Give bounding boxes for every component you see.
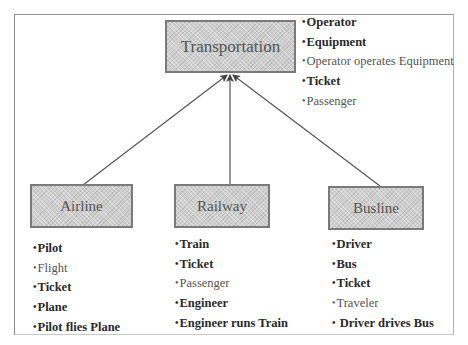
bullet-icon: • (33, 262, 37, 273)
bullet-icon: • (302, 55, 306, 66)
attribute-item: •Operator (302, 13, 454, 33)
attribute-item: •Bus (332, 255, 434, 275)
bullet-icon: • (332, 297, 336, 308)
railway-attributes: •Train •Ticket •Passenger •Engineer •Eng… (175, 235, 288, 334)
railway-label: Railway (197, 198, 247, 215)
attribute-item: •Train (175, 235, 288, 255)
bullet-icon: • (33, 301, 37, 312)
attribute-item: •Equipment (302, 33, 454, 53)
bullet-icon: • (302, 16, 306, 27)
transportation-attributes: •Operator •Equipment •Operator operates … (302, 13, 454, 112)
bullet-icon: • (302, 75, 306, 86)
attribute-item: •Engineer (175, 294, 288, 314)
bullet-icon: • (175, 317, 179, 328)
busline-label: Busline (353, 200, 399, 217)
attribute-item: •Ticket (175, 255, 288, 275)
bullet-icon: • (302, 95, 306, 106)
bullet-icon: • (302, 36, 306, 47)
bullet-icon: • (33, 321, 37, 332)
bullet-icon: • (332, 238, 336, 249)
bullet-icon: • (33, 281, 37, 292)
attribute-item: •Operator operates Equipment (302, 52, 454, 72)
bullet-icon: • (175, 277, 179, 288)
bullet-icon: • (332, 277, 336, 288)
attribute-item: •Passenger (302, 92, 454, 112)
attribute-item: • Driver drives Bus (332, 314, 434, 334)
attribute-item: •Ticket (33, 278, 120, 298)
bullet-icon: • (175, 258, 179, 269)
airline-class-box: Airline (30, 184, 133, 228)
bullet-icon: • (175, 238, 179, 249)
attribute-item: •Passenger (175, 274, 288, 294)
busline-class-box: Busline (328, 186, 424, 230)
attribute-item: •Ticket (332, 274, 434, 294)
bullet-icon: • (332, 317, 336, 328)
busline-attributes: •Driver •Bus •Ticket •Traveler • Driver … (332, 235, 434, 334)
attribute-item: •Driver (332, 235, 434, 255)
attribute-item: •Flight (33, 259, 120, 279)
attribute-item: •Plane (33, 298, 120, 318)
transportation-label: Transportation (181, 37, 281, 57)
attribute-item: •Pilot flies Plane (33, 318, 120, 338)
attribute-item: •Traveler (332, 294, 434, 314)
transportation-class-box: Transportation (165, 20, 296, 73)
bullet-icon: • (175, 297, 179, 308)
bullet-icon: • (332, 258, 336, 269)
attribute-item: •Pilot (33, 239, 120, 259)
airline-attributes: •Pilot •Flight •Ticket •Plane •Pilot fli… (33, 239, 120, 338)
bullet-icon: • (33, 242, 37, 253)
airline-label: Airline (60, 198, 103, 215)
attribute-item: •Engineer runs Train (175, 314, 288, 334)
railway-class-box: Railway (174, 184, 270, 228)
attribute-item: •Ticket (302, 72, 454, 92)
